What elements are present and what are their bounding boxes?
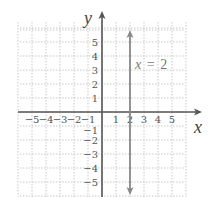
y-tick-label: 5: [92, 37, 98, 48]
y-tick-label: −3: [83, 149, 98, 160]
x-tick-label: 4: [155, 114, 161, 125]
x-tick-label: 5: [169, 114, 175, 125]
equation-value: 2: [160, 57, 167, 72]
x-tick-label: −2: [67, 114, 82, 125]
equation-label: x = 2: [134, 57, 167, 72]
y-axis-label: y: [82, 8, 92, 28]
x-axis-label: x: [193, 117, 202, 137]
y-tick-label: −2: [83, 135, 98, 146]
x-tick-label: −4: [39, 114, 54, 125]
coordinate-plane: −5−4−3−2−11234554321−1−2−3−4−5 y x x = 2: [0, 0, 220, 197]
y-tick-label: 1: [92, 93, 98, 104]
equation-equals: =: [147, 57, 155, 72]
x-tick-label: −1: [81, 114, 96, 125]
x-tick-label: −5: [25, 114, 40, 125]
y-tick-label: 4: [92, 51, 98, 62]
equation-variable: x: [134, 57, 142, 72]
y-tick-label: −4: [83, 163, 98, 174]
y-tick-label: 3: [92, 65, 98, 76]
x-tick-label: 1: [113, 114, 119, 125]
x-tick-label: −3: [53, 114, 68, 125]
y-tick-label: 2: [92, 79, 98, 90]
y-tick-label: −5: [83, 177, 98, 188]
x-tick-label: 3: [141, 114, 147, 125]
